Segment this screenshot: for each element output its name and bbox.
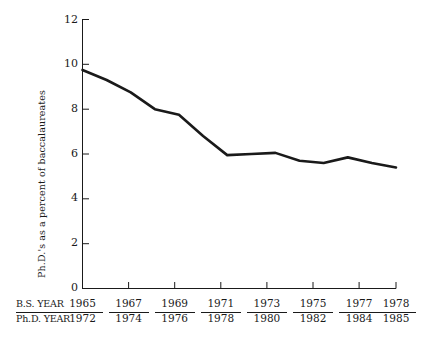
- x-axis-label-block: B.S. YEAR 1965 1967 1969 1971 1973 1975 …: [0, 296, 427, 340]
- plot-area: [0, 0, 427, 345]
- x-axis-row-phd-year: Ph.D. YEAR 1972 1974 1976 1978 1980 1982…: [0, 311, 427, 326]
- x-axis-row-bs-year: B.S. YEAR 1965 1967 1969 1971 1973 1975 …: [0, 296, 427, 311]
- y-tick-marks: [83, 20, 90, 244]
- data-line-series: [83, 70, 397, 168]
- x-tick-phd-1984: 1984: [339, 311, 379, 326]
- x-tick-phd-1974: 1974: [109, 311, 149, 326]
- x-tick-phd-1985: 1985: [376, 311, 416, 326]
- x-tick-phd-1978: 1978: [201, 311, 241, 326]
- chart-figure: Ph.D.'s as a percent of baccalaureates 1…: [0, 0, 427, 345]
- x-tick-marks: [83, 282, 397, 289]
- x-tick-phd-1972: 1972: [63, 311, 103, 326]
- x-tick-phd-1980: 1980: [247, 311, 287, 326]
- x-tick-phd-1976: 1976: [155, 311, 195, 326]
- x-tick-phd-1982: 1982: [293, 311, 333, 326]
